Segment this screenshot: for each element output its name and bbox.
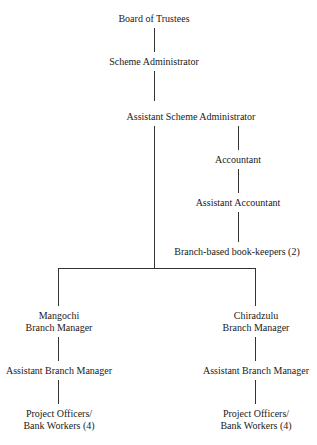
node-chiradzulu-branch-manager: Chiradzulu Branch Manager [223,310,290,334]
mangochi-line1: Mangochi [26,310,93,322]
connector-scheme-assistant [154,71,155,101]
node-board-of-trustees: Board of Trustees [118,13,189,25]
node-assistant-accountant: Assistant Accountant [196,197,281,209]
node-scheme-administrator: Scheme Administrator [109,56,199,68]
mangochi-line2: Branch Manager [26,322,93,334]
mangochi-po-line1: Project Officers/ [23,408,94,420]
node-accountant: Accountant [215,154,261,166]
connector-bar-chiradzulu [255,268,256,306]
chiradzulu-line1: Chiradzulu [223,310,290,322]
connector-board-scheme [154,28,155,52]
node-assistant-scheme-administrator: Assistant Scheme Administrator [127,111,256,123]
node-mangochi-project-officers: Project Officers/ Bank Workers (4) [23,408,94,432]
node-mangochi-assistant-branch-manager: Assistant Branch Manager [6,365,112,377]
node-branch-bookkeepers: Branch-based book-keepers (2) [174,246,300,258]
connector-bar-mangochi [58,268,59,306]
connector-mangochi-asst [58,337,59,361]
node-mangochi-branch-manager: Mangochi Branch Manager [26,310,93,334]
connector-chiradzulu-asst [255,337,256,361]
chiradzulu-po-line2: Bank Workers (4) [220,420,291,432]
connector-asst-bookkeepers [238,212,239,242]
connector-chiradzulu-po [255,380,256,404]
chiradzulu-line2: Branch Manager [223,322,290,334]
node-chiradzulu-project-officers: Project Officers/ Bank Workers (4) [220,408,291,432]
connector-accountant-asst [238,169,239,193]
mangochi-po-line2: Bank Workers (4) [23,420,94,432]
node-chiradzulu-assistant-branch-manager: Assistant Branch Manager [203,365,309,377]
connector-assistant-accountant [238,126,239,150]
connector-assistant-branches [154,126,155,268]
connector-mangochi-po [58,380,59,404]
connector-branch-bar [58,268,256,269]
chiradzulu-po-line1: Project Officers/ [220,408,291,420]
